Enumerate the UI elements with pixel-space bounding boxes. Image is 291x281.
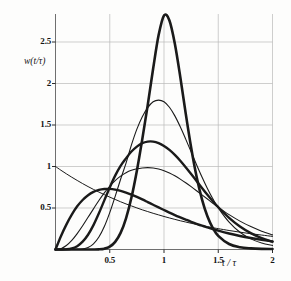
x-tick-label-0: 0.5: [101, 255, 119, 265]
y-tick-label-4: 2.5: [22, 36, 51, 46]
y-tick-label-1: 1: [22, 161, 51, 171]
y-tick-label-3: 2: [22, 78, 51, 88]
chart-figure: w(t/τ) t / τ 0.511.522.5 0.511.52: [0, 0, 291, 281]
grid-lines: [56, 14, 273, 250]
axis-lines: [52, 14, 273, 253]
y-tick-label-0: 0.5: [22, 202, 51, 212]
x-tick-label-1: 1: [155, 255, 173, 265]
y-tick-label-2: 1.5: [22, 119, 51, 129]
x-tick-label-3: 2: [264, 255, 282, 265]
y-axis-title: w(t/τ): [24, 56, 45, 66]
x-tick-label-2: 1.5: [209, 255, 227, 265]
